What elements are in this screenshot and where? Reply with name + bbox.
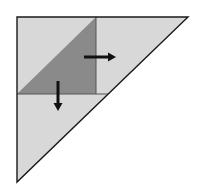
diagram-canvas (0, 0, 197, 194)
